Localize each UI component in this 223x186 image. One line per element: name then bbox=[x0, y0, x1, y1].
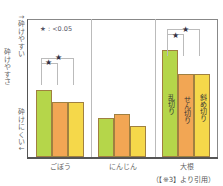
bar-ninjin-rangiri bbox=[98, 118, 114, 157]
bar-label-nanamegiri: 斜め切り bbox=[198, 94, 208, 122]
x-label-ninjin: にんじん bbox=[100, 161, 146, 171]
bar-label-rangiri: 乱切り bbox=[166, 94, 176, 115]
y-axis-bottom-label: 砕けにくい↓ bbox=[16, 108, 26, 152]
significance-legend: ★ : <0.05 bbox=[40, 25, 72, 33]
bar-gobo-rangiri bbox=[36, 90, 52, 157]
category-divider bbox=[91, 19, 92, 157]
bar-ninjin-nanamegiri bbox=[130, 126, 146, 157]
x-label-daikon: 大根 bbox=[172, 161, 202, 171]
source-note: （【※3】より引用） bbox=[152, 174, 215, 184]
category-divider bbox=[155, 19, 156, 157]
bar-label-sengiri: せん切り bbox=[182, 96, 192, 124]
x-label-gobo: ごぼう bbox=[44, 161, 76, 171]
bar-gobo-sengiri bbox=[52, 102, 68, 157]
y-axis-top-label: ↑砕けやすい bbox=[16, 14, 26, 58]
star-icon: ★ bbox=[182, 26, 189, 34]
y-axis-label: 砕けやすさ bbox=[2, 48, 12, 86]
star-icon: ★ bbox=[55, 54, 62, 62]
bar-ninjin-sengiri bbox=[114, 114, 130, 157]
x-axis bbox=[27, 157, 218, 159]
bar-gobo-nanamegiri bbox=[68, 102, 84, 157]
star-icon: ★ bbox=[172, 32, 179, 40]
star-icon: ★ bbox=[45, 59, 52, 67]
